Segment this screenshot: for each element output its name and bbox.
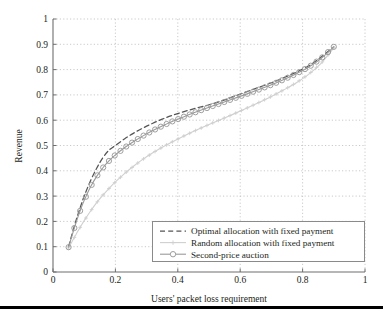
data-point-marker	[263, 98, 267, 102]
legend-label: Second-price auction	[191, 250, 269, 260]
legend-circle-marker	[170, 252, 175, 257]
revenue-vs-packet-loss-chart: 00.20.40.60.8100.10.20.30.40.50.60.70.80…	[0, 0, 383, 321]
x-tick-label: 0.4	[172, 275, 184, 285]
x-tick-label: 0.2	[109, 275, 121, 285]
y-tick-label: 0.9	[36, 40, 48, 50]
series-1	[69, 47, 334, 247]
data-point-marker	[205, 124, 209, 128]
legend-label: Optimal allocation with fixed payment	[191, 226, 334, 236]
data-point-marker	[245, 106, 249, 110]
series-line	[69, 47, 334, 247]
data-point-marker	[182, 134, 186, 138]
data-point-marker	[211, 121, 215, 125]
y-tick-label: 0.7	[36, 90, 48, 100]
y-tick-label: 0	[43, 267, 48, 277]
data-point-marker	[228, 114, 232, 118]
data-point-marker	[199, 126, 203, 130]
figure-container: 00.20.40.60.8100.10.20.30.40.50.60.70.80…	[0, 0, 383, 321]
y-tick-label: 0.4	[36, 166, 48, 176]
data-point-marker	[251, 103, 255, 107]
data-point-marker	[170, 140, 174, 144]
y-tick-label: 0.6	[36, 116, 48, 126]
data-point-marker	[222, 116, 226, 120]
bottom-horizontal-rule	[0, 306, 383, 309]
data-point-marker	[217, 119, 221, 123]
series-layer	[66, 44, 336, 250]
data-point-marker	[234, 111, 238, 115]
data-point-marker	[268, 95, 272, 99]
x-tick-label: 1	[363, 275, 368, 285]
series-line	[69, 47, 334, 247]
x-tick-label: 0.8	[297, 275, 309, 285]
x-axis-title: Users' packet loss requirement	[151, 294, 267, 304]
data-point-marker	[188, 131, 192, 135]
y-tick-label: 0.2	[36, 217, 48, 227]
y-tick-label: 0.8	[36, 65, 48, 75]
x-tick-label: 0.6	[234, 275, 246, 285]
series-3	[66, 44, 336, 250]
data-point-marker	[257, 101, 261, 105]
x-tick-label: 0	[51, 275, 56, 285]
chart-legend: Optimal allocation with fixed paymentRan…	[153, 222, 365, 262]
y-tick-label: 0.5	[36, 141, 48, 151]
y-axis-title: Revenue	[14, 129, 24, 162]
data-point-marker	[194, 129, 198, 133]
y-tick-label: 0.3	[36, 192, 48, 202]
y-tick-label: 0.1	[36, 242, 48, 252]
y-tick-label: 1	[43, 14, 48, 24]
legend-label: Random allocation with fixed payment	[191, 238, 335, 248]
